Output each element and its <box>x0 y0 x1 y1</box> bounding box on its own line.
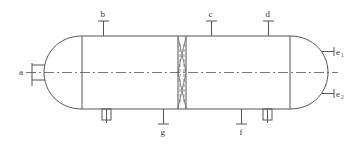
vessel-diagram: a b c d e 1 e 2 g f <box>0 0 363 147</box>
label-e1: e <box>336 47 340 57</box>
label-g: g <box>161 127 166 137</box>
label-f: f <box>240 127 243 137</box>
nozzle-a: a <box>19 63 45 86</box>
nozzle-d: d <box>263 9 274 36</box>
label-a: a <box>19 67 23 77</box>
nozzle-b: b <box>98 9 109 36</box>
label-e1-subscript: 1 <box>341 52 344 58</box>
nozzle-e1: e 1 <box>322 47 344 58</box>
label-e2: e <box>336 89 340 99</box>
label-e2-subscript: 2 <box>341 94 344 100</box>
label-d: d <box>266 9 271 19</box>
label-b: b <box>101 9 106 19</box>
nozzle-c: c <box>206 9 217 36</box>
nozzle-f: f <box>236 109 247 137</box>
saddle-support-right <box>263 109 272 123</box>
label-c: c <box>209 9 213 19</box>
nozzle-g: g <box>158 109 169 137</box>
nozzle-e2: e 2 <box>322 89 344 100</box>
saddle-support-left <box>102 109 111 123</box>
